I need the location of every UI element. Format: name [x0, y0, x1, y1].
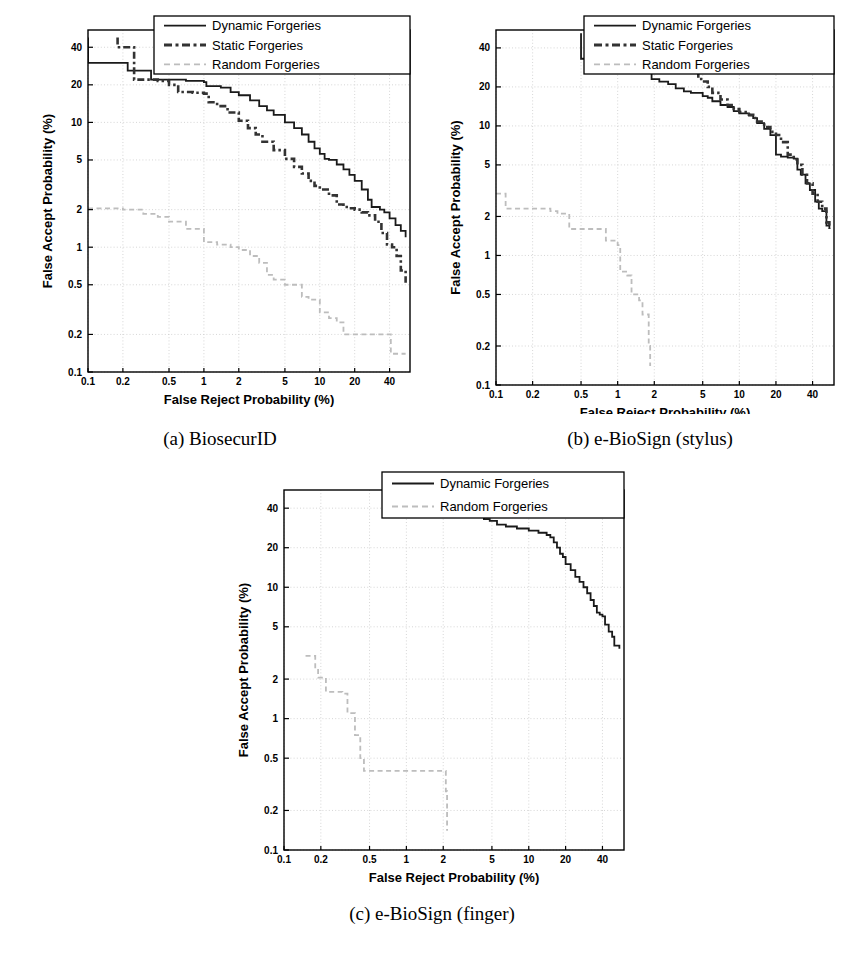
svg-text:False Reject Probability (%): False Reject Probability (%)	[369, 870, 540, 885]
svg-text:0.5: 0.5	[476, 289, 490, 300]
svg-text:1: 1	[272, 713, 278, 724]
chart-panel-ebiosign-finger: 0.10.20.51251020400.10.20.5125102040Fals…	[206, 468, 646, 888]
svg-text:5: 5	[484, 159, 490, 170]
subcaption-a: (a) BiosecurID	[60, 428, 380, 450]
svg-text:10: 10	[523, 854, 535, 865]
svg-text:0.2: 0.2	[68, 329, 82, 340]
svg-text:2: 2	[484, 211, 490, 222]
svg-text:False Accept Probability (%): False Accept Probability (%)	[40, 114, 55, 288]
svg-text:40: 40	[71, 42, 83, 53]
svg-text:0.1: 0.1	[264, 845, 278, 856]
svg-text:20: 20	[770, 389, 782, 400]
det-curve-chart-a: 0.10.20.51251020400.10.20.5125102040Fals…	[8, 14, 428, 414]
svg-text:0.5: 0.5	[363, 854, 377, 865]
svg-text:10: 10	[734, 389, 746, 400]
svg-text:False Accept Probability (%): False Accept Probability (%)	[448, 120, 463, 294]
svg-text:5: 5	[272, 621, 278, 632]
svg-text:0.1: 0.1	[68, 367, 82, 378]
svg-text:0.5: 0.5	[68, 279, 82, 290]
svg-text:2: 2	[652, 389, 658, 400]
svg-text:Dynamic Forgeries: Dynamic Forgeries	[440, 476, 550, 491]
svg-text:0.2: 0.2	[526, 389, 540, 400]
svg-text:0.5: 0.5	[574, 389, 588, 400]
svg-text:0.5: 0.5	[264, 753, 278, 764]
svg-text:20: 20	[560, 854, 572, 865]
svg-text:0.2: 0.2	[314, 854, 328, 865]
svg-text:40: 40	[384, 376, 396, 387]
chart-panel-ebiosign-stylus: 0.10.20.51251020400.10.20.5125102040Fals…	[424, 14, 856, 414]
svg-text:1: 1	[201, 376, 207, 387]
svg-text:1: 1	[484, 250, 490, 261]
subcaption-c: (c) e-BioSign (finger)	[252, 903, 612, 925]
svg-text:False Accept Probability (%): False Accept Probability (%)	[236, 583, 251, 757]
svg-text:0.5: 0.5	[162, 376, 176, 387]
svg-text:20: 20	[479, 81, 491, 92]
svg-text:Dynamic Forgeries: Dynamic Forgeries	[642, 18, 752, 33]
svg-text:2: 2	[272, 674, 278, 685]
svg-text:10: 10	[267, 582, 279, 593]
svg-text:Random Forgeries: Random Forgeries	[440, 499, 548, 514]
svg-text:Random Forgeries: Random Forgeries	[212, 57, 320, 72]
svg-text:20: 20	[71, 79, 83, 90]
svg-text:0.1: 0.1	[489, 389, 503, 400]
svg-text:0.1: 0.1	[277, 854, 291, 865]
det-curve-chart-b: 0.10.20.51251020400.10.20.5125102040Fals…	[424, 14, 856, 414]
svg-text:5: 5	[76, 154, 82, 165]
svg-text:1: 1	[76, 242, 82, 253]
svg-text:Static Forgeries: Static Forgeries	[212, 38, 304, 53]
svg-text:Dynamic Forgeries: Dynamic Forgeries	[212, 18, 322, 33]
svg-text:10: 10	[479, 120, 491, 131]
svg-text:2: 2	[76, 204, 82, 215]
svg-text:5: 5	[700, 389, 706, 400]
svg-text:False Reject Probability (%): False Reject Probability (%)	[164, 392, 335, 407]
det-curve-chart-c: 0.10.20.51251020400.10.20.5125102040Fals…	[206, 468, 646, 888]
subcaption-b: (b) e-BioSign (stylus)	[480, 428, 820, 450]
svg-text:10: 10	[314, 376, 326, 387]
chart-panel-biosecurid: 0.10.20.51251020400.10.20.5125102040Fals…	[8, 14, 428, 414]
svg-text:5: 5	[282, 376, 288, 387]
svg-text:20: 20	[267, 542, 279, 553]
svg-text:40: 40	[479, 42, 491, 53]
svg-text:0.2: 0.2	[476, 341, 490, 352]
svg-text:Random Forgeries: Random Forgeries	[642, 57, 750, 72]
svg-text:2: 2	[440, 854, 446, 865]
svg-text:40: 40	[597, 854, 609, 865]
svg-text:0.2: 0.2	[116, 376, 130, 387]
svg-text:10: 10	[71, 117, 83, 128]
svg-text:Static Forgeries: Static Forgeries	[642, 38, 734, 53]
svg-text:20: 20	[349, 376, 361, 387]
svg-text:0.1: 0.1	[476, 380, 490, 391]
svg-text:2: 2	[236, 376, 242, 387]
svg-text:40: 40	[807, 389, 819, 400]
svg-text:1: 1	[615, 389, 621, 400]
svg-text:False Reject Probability (%): False Reject Probability (%)	[580, 405, 751, 414]
svg-text:0.1: 0.1	[81, 376, 95, 387]
svg-text:5: 5	[489, 854, 495, 865]
svg-text:0.2: 0.2	[264, 805, 278, 816]
svg-text:40: 40	[267, 503, 279, 514]
svg-text:1: 1	[404, 854, 410, 865]
